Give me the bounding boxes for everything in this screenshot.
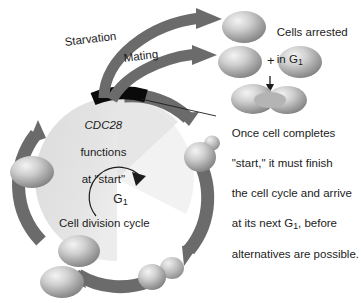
daughter-cell-bottom bbox=[40, 266, 84, 298]
note-line3: the cell cycle and arrive bbox=[232, 187, 352, 199]
arrested-line2-pre: in G bbox=[277, 53, 298, 65]
cdc28-gene-name: CDC28 bbox=[85, 119, 123, 131]
note-line2: "start," it must finish bbox=[232, 157, 333, 169]
cdc28-functions-word: functions bbox=[80, 146, 126, 158]
note-line4-pre: at its next G bbox=[232, 217, 293, 229]
annotation-start-irreversible: Once cell completes "start," it must fin… bbox=[219, 111, 359, 277]
arrested-line2-sub: 1 bbox=[298, 57, 303, 67]
label-plus-sign: + bbox=[267, 53, 275, 68]
label-cell-division-cycle: Cell division cycle bbox=[59, 217, 150, 231]
cell-cycle-diagram: Starvation Mating CDC28 functions at "st… bbox=[0, 0, 361, 303]
note-line4-post: , before bbox=[298, 217, 337, 229]
note-line1: Once cell completes bbox=[232, 127, 336, 139]
large-budded-cell-bottom-right bbox=[138, 257, 184, 290]
annotation-cells-arrested: Cells arrested in G1 bbox=[264, 12, 348, 80]
arrested-line1: Cells arrested bbox=[277, 26, 348, 38]
mating-cell-a bbox=[218, 46, 262, 78]
g1-subscript: 1 bbox=[123, 197, 128, 207]
daughter-cell-lower-left bbox=[58, 235, 100, 267]
label-g1-phase: G1 bbox=[100, 178, 128, 222]
note-line5: alternatives are possible. bbox=[232, 248, 359, 260]
g1-cell-left bbox=[10, 156, 54, 188]
small-budded-cell-right bbox=[184, 136, 220, 173]
g1-letter: G bbox=[113, 192, 122, 206]
arrested-cell bbox=[222, 11, 266, 43]
